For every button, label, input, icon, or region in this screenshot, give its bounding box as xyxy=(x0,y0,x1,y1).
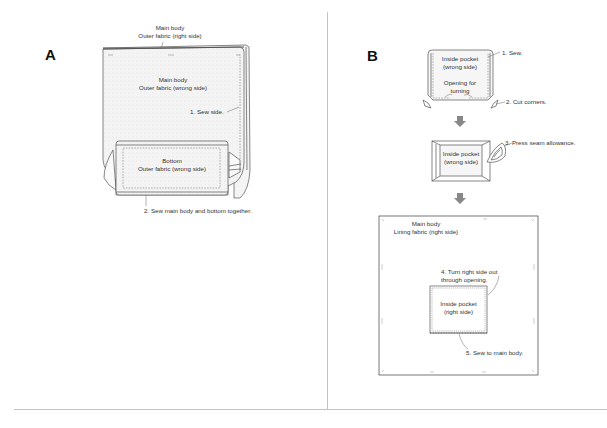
main-body-outer-right-label: Main body Outer fabric (right side) xyxy=(130,24,210,39)
step-cut-corners-label: 2. Cut corners. xyxy=(506,98,547,106)
lining-label: Main body Lining fabric (right side) xyxy=(386,220,466,235)
arrow-down-icon xyxy=(454,116,466,127)
main-body-outer-wrong-label: Main body Outer fabric (wrong side) xyxy=(128,76,218,91)
step-sew-to-main-label: 5. Sew to main body. xyxy=(466,349,523,357)
step-sew-label: 1. Sew. xyxy=(502,49,522,57)
step-press-seam-label: 3. Press seam allowance. xyxy=(505,139,576,147)
panel-letter-b: B xyxy=(367,47,378,64)
opening-for-turning-label: Opening for turning xyxy=(430,79,490,94)
panel-letter-a: A xyxy=(45,46,56,63)
step-sew-bottom-label: 2. Sew main body and bottom together. xyxy=(144,207,252,215)
pocket-right-side-label: Inside pocket (right side) xyxy=(432,300,485,315)
pocket-wrong-side-label-2: Inside pocket (wrong side) xyxy=(436,150,486,165)
pocket-wrong-side-label-1: Inside pocket (wrong side) xyxy=(430,55,490,70)
arrow-down-icon xyxy=(454,193,466,204)
bottom-label: Bottom Outer fabric (wrong side) xyxy=(124,157,220,172)
step-turn-right-side-label: 4. Turn right side out through opening. xyxy=(441,268,497,283)
step-sew-side-label: 1. Sew side. xyxy=(190,108,224,116)
sewing-illustration xyxy=(0,0,607,428)
